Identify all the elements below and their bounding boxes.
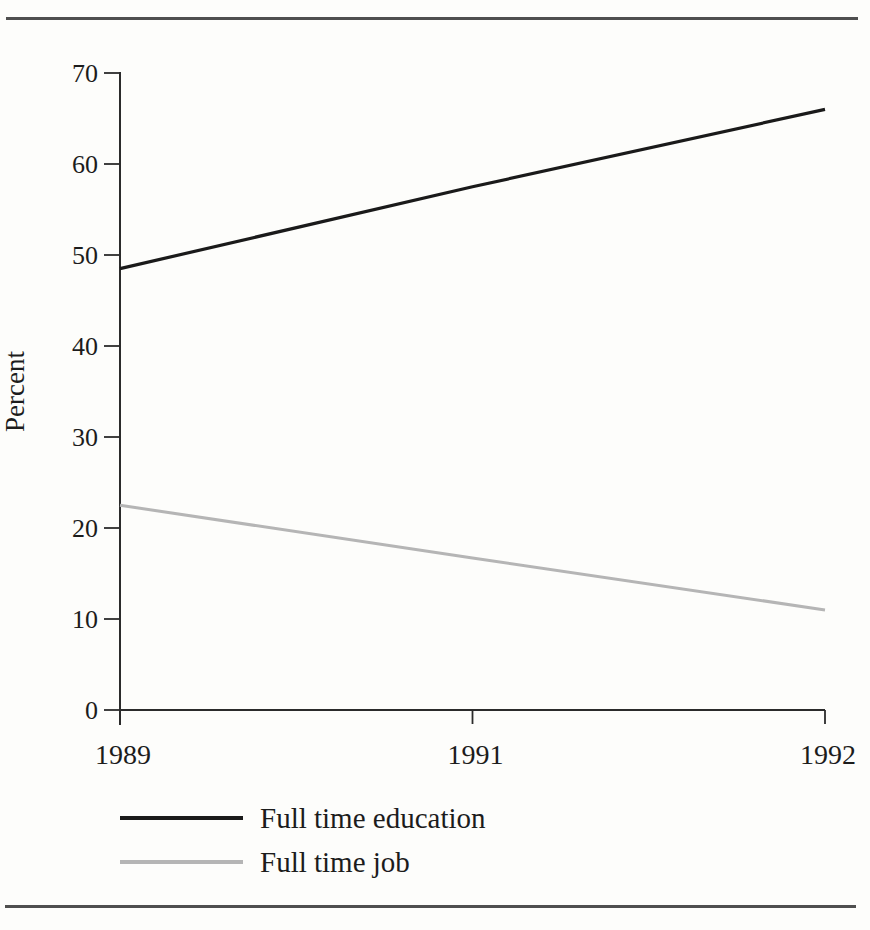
bottom-rule — [5, 905, 856, 908]
x-tick-label: 1991 — [448, 739, 504, 770]
y-tick-label: 30 — [72, 423, 98, 452]
series-line-full-time-job — [120, 505, 825, 610]
legend-label-education: Full time education — [260, 804, 486, 833]
y-tick-label: 40 — [72, 332, 98, 361]
series-line-full-time-education — [120, 109, 825, 268]
y-tick-label: 0 — [85, 696, 98, 725]
y-tick-label: 60 — [72, 150, 98, 179]
chart-legend: Full time education Full time job — [120, 796, 486, 884]
y-tick-label: 70 — [72, 59, 98, 88]
legend-label-job: Full time job — [260, 848, 410, 877]
line-chart: 010203040506070198919911992Percent — [0, 0, 870, 930]
legend-swatch-education — [120, 816, 243, 820]
y-tick-label: 50 — [72, 241, 98, 270]
x-tick-label: 1992 — [800, 739, 856, 770]
legend-swatch-job — [120, 860, 243, 864]
y-tick-label: 10 — [72, 605, 98, 634]
legend-item-full-time-education: Full time education — [120, 796, 486, 840]
y-axis-title: Percent — [0, 351, 30, 432]
legend-item-full-time-job: Full time job — [120, 840, 486, 884]
y-tick-label: 20 — [72, 514, 98, 543]
x-tick-label: 1989 — [95, 739, 151, 770]
